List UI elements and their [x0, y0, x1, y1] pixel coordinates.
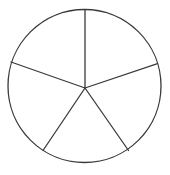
- figure-container: Circle divided into five sectors A plain…: [0, 0, 170, 175]
- circle-sector-diagram: Circle divided into five sectors A plain…: [0, 0, 170, 175]
